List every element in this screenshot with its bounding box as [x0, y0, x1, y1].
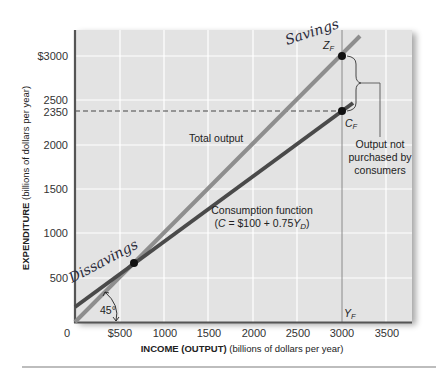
angle-label: 45°: [100, 304, 116, 316]
gap-label-line1: Output not: [355, 138, 404, 150]
zf-point: [338, 52, 346, 60]
gap-label-line3: consumers: [354, 164, 405, 176]
x-tick-500: $500: [108, 327, 132, 339]
x-tick-0: 0: [64, 327, 70, 339]
x-axis-title: INCOME (OUTPUT) (billions of dollars per…: [141, 343, 344, 354]
x-tick-1500: 1500: [197, 327, 221, 339]
gap-label-line2: purchased by: [348, 151, 412, 163]
consumption-function-label: Consumption function: [211, 204, 313, 216]
bottom-divider: [22, 366, 436, 368]
cf-point: [338, 107, 346, 115]
y-tick-2000: 2000: [44, 139, 68, 151]
y-tick-3000: $3000: [37, 50, 68, 62]
y-tick-2500: 2500: [44, 94, 68, 106]
x-tick-3500: 3500: [375, 327, 399, 339]
x-tick-2500: 2500: [286, 327, 310, 339]
consumption-chart: $3000 2500 2350 2000 1500 1000 500 0 $50…: [0, 0, 436, 374]
x-tick-3000: 3000: [330, 327, 354, 339]
y-tick-2350: 2350: [44, 106, 68, 118]
x-tick-1000: 1000: [153, 327, 177, 339]
y-tick-500: 500: [50, 272, 68, 284]
y-tick-1500: 1500: [44, 183, 68, 195]
break-even-point: [130, 259, 138, 267]
consumption-equation-label: (C = $100 + 0.75YD): [214, 217, 309, 231]
total-output-label: Total output: [189, 132, 243, 144]
x-tick-2000: 2000: [242, 327, 266, 339]
y-tick-1000: 1000: [44, 227, 68, 239]
y-axis-title: EXPENDITURE (billions of dollars per yea…: [20, 86, 31, 270]
